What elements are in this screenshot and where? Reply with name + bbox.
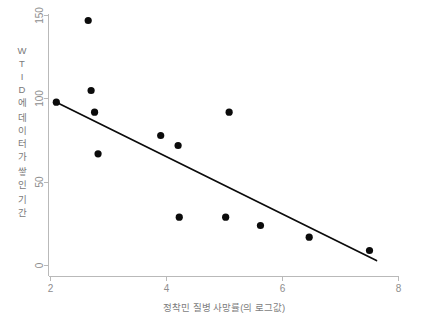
x-tick-label-8: 8 [396, 283, 402, 294]
y-axis-title-char: 에 [18, 97, 27, 108]
scatter-point [257, 222, 264, 229]
scatter-point [175, 142, 182, 149]
scatter-point [157, 132, 164, 139]
scatter-point [91, 109, 98, 116]
scatter-plot-figure: 150 100 50 0 2 4 6 8 정착민 질병 사망률(의 로그값) W… [0, 0, 422, 322]
y-tick-label-150: 150 [34, 7, 45, 24]
scatter-point [222, 214, 229, 221]
scatter-point [306, 234, 313, 241]
y-axis-title-char: 인 [18, 179, 27, 190]
scatter-point [53, 99, 60, 106]
y-axis-title-char: 쌓 [18, 166, 27, 177]
scatter-point [226, 109, 233, 116]
x-tick-label-4: 4 [164, 283, 170, 294]
x-axis-title: 정착민 질병 사망률(의 로그값) [163, 302, 285, 313]
scatter-point [88, 87, 95, 94]
y-tick-label-50: 50 [34, 176, 45, 188]
y-axis-title-char: 기 [18, 194, 27, 205]
x-tick-label-2: 2 [48, 283, 54, 294]
x-tick-label-6: 6 [280, 283, 286, 294]
y-axis-title-char: D [19, 84, 26, 95]
plot-background [0, 0, 422, 322]
y-axis-title-char: W [18, 45, 27, 56]
scatter-point [94, 150, 101, 157]
scatter-point [85, 17, 92, 24]
scatter-point [176, 214, 183, 221]
y-tick-label-0: 0 [34, 262, 45, 268]
y-axis-title-char: 간 [18, 207, 27, 218]
y-axis-title-char: T [19, 58, 25, 69]
y-axis-title-char: 가 [18, 151, 27, 162]
y-axis-title-char: 이 [18, 125, 27, 136]
y-tick-label-100: 100 [34, 90, 45, 107]
y-axis-title-char: 터 [18, 138, 27, 149]
y-axis-title-char: 데 [18, 112, 27, 123]
scatter-point [366, 247, 373, 254]
y-axis-title-char: I [21, 71, 24, 82]
